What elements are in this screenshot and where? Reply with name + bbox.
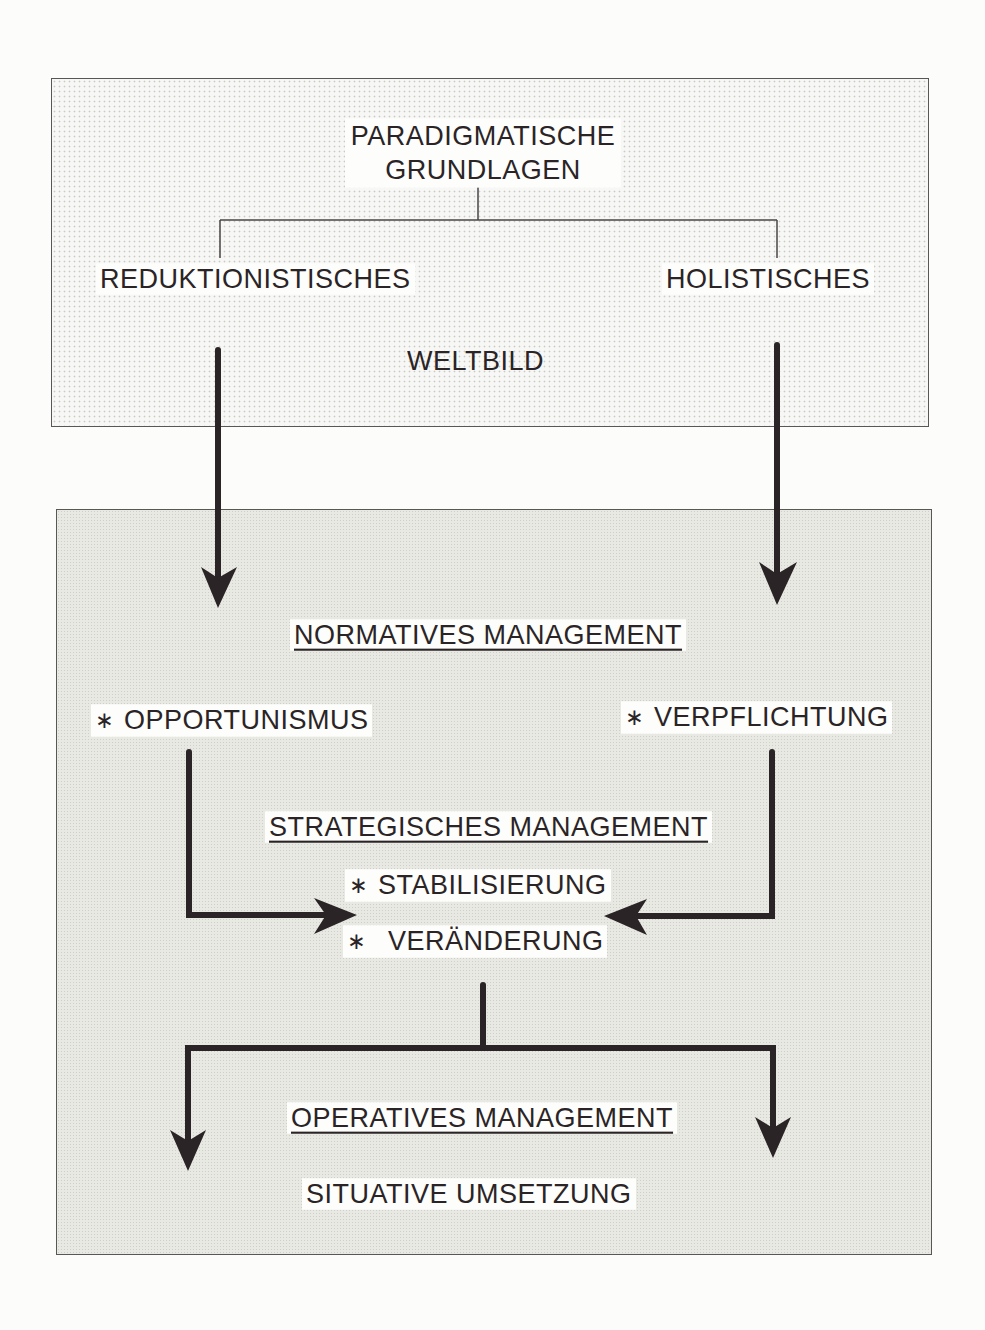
reductionist-label: REDUKTIONISTISCHES — [96, 263, 415, 295]
worldview-label: WELTBILD — [407, 345, 544, 377]
paradigm-title: PARADIGMATISCHE GRUNDLAGEN — [345, 118, 621, 187]
opportunism-label: OPPORTUNISMUS — [124, 704, 369, 736]
strategic-management-heading: STRATEGISCHES MANAGEMENT — [265, 811, 712, 843]
commitment-label: VERPFLICHTUNG — [654, 701, 889, 733]
situational-implementation-label: SITUATIVE UMSETZUNG — [302, 1178, 636, 1210]
change-item: ∗VERÄNDERUNG — [343, 925, 607, 958]
stabilization-label: STABILISIERUNG — [378, 869, 607, 901]
bullet-asterisk-icon: ∗ — [625, 704, 644, 730]
paradigm-tree-connector — [220, 183, 777, 258]
paradigm-title-line2: GRUNDLAGEN — [349, 153, 617, 188]
normative-management-heading: NORMATIVES MANAGEMENT — [290, 619, 686, 651]
bullet-asterisk-icon: ∗ — [349, 872, 368, 898]
operative-management-heading: OPERATIVES MANAGEMENT — [287, 1102, 677, 1134]
change-label: VERÄNDERUNG — [388, 925, 604, 957]
bullet-asterisk-icon: ∗ — [95, 707, 114, 733]
holistic-label: HOLISTISCHES — [662, 263, 874, 295]
fork-branches — [188, 1048, 773, 1150]
bullet-asterisk-icon: ∗ — [347, 928, 366, 954]
stabilization-item: ∗STABILISIERUNG — [345, 869, 611, 902]
opportunism-item: ∗OPPORTUNISMUS — [91, 704, 372, 737]
commitment-item: ∗VERPFLICHTUNG — [621, 701, 892, 734]
paradigm-title-line1: PARADIGMATISCHE — [349, 118, 617, 153]
